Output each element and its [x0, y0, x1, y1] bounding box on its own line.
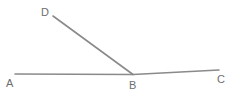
point-label-a: A: [6, 78, 14, 89]
segment-bc-line: [133, 70, 219, 75]
segment-bd-line: [53, 16, 133, 75]
point-label-b: B: [129, 80, 137, 91]
segment-ab-line: [15, 74, 133, 75]
figure-canvas: [0, 0, 233, 95]
point-label-c: C: [217, 74, 225, 85]
point-label-d: D: [41, 7, 49, 18]
geometry-figure: A B C D: [0, 0, 233, 95]
